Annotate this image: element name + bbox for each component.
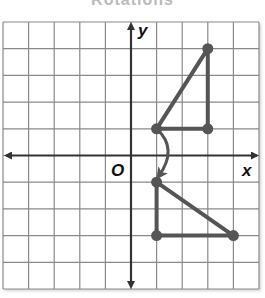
- vertex-point: [228, 230, 239, 241]
- vertex-point: [151, 230, 162, 241]
- coordinate-plane: [0, 0, 265, 298]
- vertex-point: [202, 123, 213, 134]
- vertex-point: [151, 177, 162, 188]
- vertex-point: [202, 43, 213, 54]
- origin-label: O: [111, 162, 124, 179]
- x-axis-label: x: [242, 162, 251, 179]
- y-axis-label: y: [138, 22, 147, 39]
